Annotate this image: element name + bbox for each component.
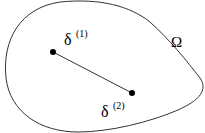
point-2-superscript: (2)	[113, 100, 125, 112]
point-1	[50, 49, 56, 55]
point-1-symbol: δ	[64, 31, 72, 48]
region-label: Ω	[171, 34, 182, 50]
point-1-superscript: (1)	[76, 28, 88, 40]
point-2	[129, 90, 135, 96]
point-2-symbol: δ	[101, 103, 109, 120]
domain-diagram: δ (1) δ (2) Ω	[0, 0, 205, 133]
segment	[53, 52, 132, 93]
